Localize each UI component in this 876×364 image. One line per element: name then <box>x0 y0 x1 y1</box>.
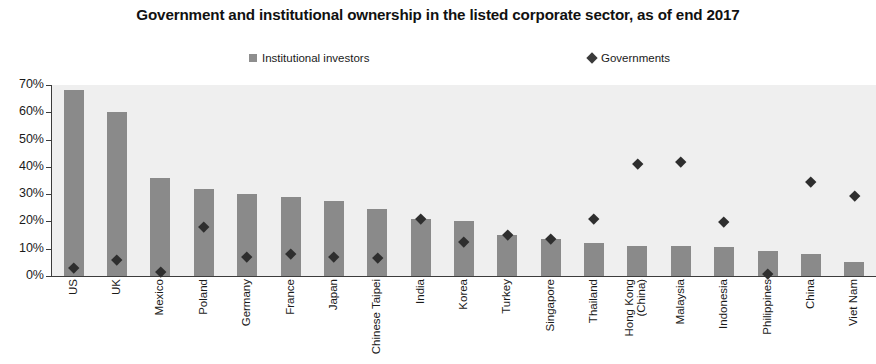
bar <box>411 219 431 276</box>
x-axis-tick-label: Philippines <box>761 279 773 335</box>
bar <box>714 247 734 276</box>
bar <box>64 90 84 276</box>
x-axis-tick-label: Germany <box>240 279 252 326</box>
y-axis-tick-mark <box>46 221 51 222</box>
x-axis-tick-label: US <box>67 279 79 295</box>
x-axis-tick-label: Hong Kong(China) <box>624 279 647 337</box>
bar <box>584 243 604 276</box>
chart-title: Government and institutional ownership i… <box>0 6 876 23</box>
y-axis-tick-label: 30% <box>0 186 44 200</box>
legend-item-institutional-investors: Institutional investors <box>249 52 369 64</box>
y-axis-tick-label: 0% <box>0 268 44 282</box>
y-axis-tick-mark <box>46 276 51 277</box>
y-axis-tick-label: 60% <box>0 104 44 118</box>
bar <box>237 194 257 276</box>
y-axis-tick-mark <box>46 249 51 250</box>
x-axis-tick-label: Viet Nam <box>847 279 859 326</box>
legend-label-institutional-investors: Institutional investors <box>262 52 369 64</box>
x-axis-tick-label: Singapore <box>544 279 556 331</box>
bar <box>844 262 864 276</box>
x-axis-tick-label: Malaysia <box>674 279 686 324</box>
chart-container: Government and institutional ownership i… <box>0 0 876 364</box>
bar <box>324 201 344 276</box>
y-axis-tick-mark <box>46 112 51 113</box>
x-axis-tick-label: India <box>414 279 426 304</box>
y-axis-tick-mark <box>46 140 51 141</box>
y-axis-line <box>51 85 52 277</box>
x-axis-tick-label: Turkey <box>500 279 512 314</box>
y-axis-tick-label: 50% <box>0 132 44 146</box>
x-axis-tick-label: Chinese Taipei <box>370 279 382 354</box>
bar <box>454 221 474 276</box>
x-axis-labels: USUKMexicoPolandGermanyFranceJapanChines… <box>52 279 876 364</box>
chart-legend: Institutional investors Governments <box>0 52 876 70</box>
bar <box>801 254 821 276</box>
x-axis-tick-label: Korea <box>457 279 469 310</box>
y-axis-tick-mark <box>46 194 51 195</box>
x-axis-tick-label: Mexico <box>153 279 165 315</box>
x-axis-tick-label: Japan <box>327 279 339 310</box>
legend-square-marker-icon <box>249 54 257 62</box>
bar <box>107 112 127 276</box>
legend-item-governments: Governments <box>588 52 670 64</box>
x-axis-tick-label: Thailand <box>587 279 599 323</box>
x-axis-tick-label: Indonesia <box>717 279 729 329</box>
y-axis-tick-label: 20% <box>0 213 44 227</box>
y-axis-tick-mark <box>46 167 51 168</box>
bar <box>367 209 387 276</box>
x-axis-tick-label: Poland <box>197 279 209 315</box>
bar <box>627 246 647 276</box>
x-axis-tick-label: France <box>284 279 296 315</box>
y-axis-tick-label: 70% <box>0 77 44 91</box>
x-axis-tick-label: China <box>804 279 816 309</box>
bar <box>497 235 517 276</box>
bar <box>281 197 301 276</box>
legend-diamond-marker-icon <box>586 52 597 63</box>
y-axis-tick-label: 10% <box>0 241 44 255</box>
x-axis-tick-label: UK <box>110 279 122 295</box>
bar <box>194 189 214 276</box>
bar <box>541 239 561 276</box>
legend-label-governments: Governments <box>601 52 670 64</box>
y-axis-tick-mark <box>46 85 51 86</box>
bar <box>671 246 691 276</box>
x-axis-line <box>51 276 876 277</box>
bar <box>150 178 170 276</box>
y-axis-tick-label: 40% <box>0 159 44 173</box>
